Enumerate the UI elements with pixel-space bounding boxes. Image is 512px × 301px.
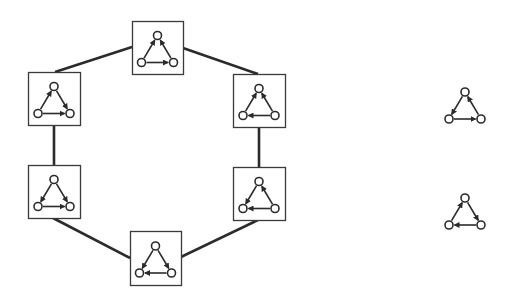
triad-box-right-top	[234, 75, 286, 128]
node-circle-br	[66, 203, 74, 211]
triad-transition-diagram	[0, 0, 512, 301]
node-circle-top	[255, 178, 263, 186]
ring-boxes	[29, 22, 286, 286]
node-circle-bl	[239, 205, 247, 213]
triad-cycle-counterclockwise	[445, 194, 485, 229]
node-circle-br	[271, 205, 279, 213]
node-circle-bl	[138, 59, 146, 67]
node-circle-bl	[34, 203, 42, 211]
triad-box-left-bottom	[29, 166, 81, 219]
node-circle-bl	[445, 221, 453, 229]
node-circle-br	[170, 59, 178, 67]
node-circle-bl	[445, 115, 453, 123]
triad-box-left-top	[29, 73, 81, 126]
node-circle-top	[50, 176, 58, 184]
standalone-triads	[445, 88, 485, 229]
directed-edge-arrow	[468, 202, 479, 220]
triad-box-bottom	[131, 232, 182, 286]
node-circle-top	[152, 242, 160, 250]
directed-edge-arrow	[452, 96, 463, 114]
connection-line	[53, 218, 130, 258]
node-circle-top	[461, 194, 469, 202]
node-circle-br	[168, 269, 176, 277]
node-circle-bl	[136, 269, 144, 277]
node-circle-top	[461, 88, 469, 96]
triad-box-right-bottom	[234, 168, 286, 221]
node-circle-top	[50, 83, 58, 91]
node-circle-br	[477, 115, 485, 123]
triad-box-top	[133, 22, 184, 75]
connection-line	[181, 220, 258, 257]
node-circle-top	[255, 85, 263, 93]
triad-cycle-clockwise	[445, 88, 485, 123]
node-circle-br	[66, 110, 74, 118]
directed-edge-arrow	[468, 97, 479, 115]
node-circle-br	[271, 112, 279, 120]
connection-line	[183, 48, 258, 74]
node-circle-br	[477, 221, 485, 229]
node-circle-bl	[34, 110, 42, 118]
connection-line	[55, 47, 132, 72]
node-circle-bl	[239, 112, 247, 120]
node-circle-top	[154, 32, 162, 40]
ring-connections	[53, 47, 259, 258]
directed-edge-arrow	[452, 203, 463, 221]
